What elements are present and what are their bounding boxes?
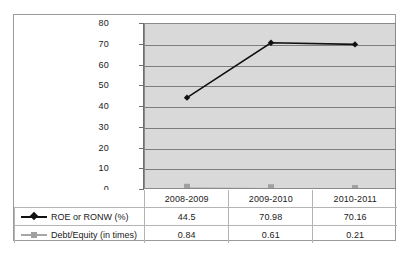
column-header-2009-2010: 2009-2010	[229, 190, 313, 208]
plot-area	[144, 23, 396, 189]
table-cell-roe-2010-2011: 70.16	[313, 208, 397, 226]
series-markers-debt-equity	[184, 184, 358, 189]
chart-frame: 80 70 60 50 40 30 20 10 0	[13, 14, 396, 241]
y-tick-label: 70	[49, 40, 109, 49]
table-row: Debt/Equity (in times) 0.84 0.61 0.21	[15, 226, 398, 244]
series-markers-roe	[184, 40, 358, 101]
series-line-roe	[187, 43, 355, 98]
table-cell-de-2009-2010: 0.61	[229, 226, 313, 244]
series-overlay	[145, 24, 396, 189]
table-cell-roe-2008-2009: 44.5	[145, 208, 229, 226]
diamond-icon	[21, 212, 47, 221]
legend-label-debt-equity: Debt/Equity (in times)	[51, 230, 137, 240]
table-cell-roe-2009-2010: 70.98	[229, 208, 313, 226]
table-corner-cell	[15, 190, 145, 208]
y-tick-label: 80	[49, 19, 109, 28]
data-point-marker	[352, 41, 358, 47]
series-line-debt-equity	[187, 188, 355, 189]
column-header-2008-2009: 2008-2009	[145, 190, 229, 208]
y-tick-label: 40	[49, 102, 109, 111]
table-cell-de-2010-2011: 0.21	[313, 226, 397, 244]
table-row: ROE or RONW (%) 44.5 70.98 70.16	[15, 208, 398, 226]
data-point-marker	[352, 185, 358, 189]
legend-cell-debt-equity: Debt/Equity (in times)	[15, 226, 145, 244]
data-point-marker	[268, 184, 274, 189]
y-tick-label: 50	[49, 81, 109, 90]
table-cell-de-2008-2009: 0.84	[145, 226, 229, 244]
plot-wrapper: 80 70 60 50 40 30 20 10 0	[14, 15, 397, 190]
legend-label-roe: ROE or RONW (%)	[51, 212, 129, 222]
table-header-row: 2008-2009 2009-2010 2010-2011	[15, 190, 398, 208]
y-tick-label: 10	[49, 164, 109, 173]
square-icon	[21, 230, 47, 239]
legend-cell-roe: ROE or RONW (%)	[15, 208, 145, 226]
data-point-marker	[184, 184, 190, 189]
column-header-2010-2011: 2010-2011	[313, 190, 397, 208]
y-tick-label: 30	[49, 123, 109, 132]
y-tick-label: 20	[49, 144, 109, 153]
y-tick-label: 60	[49, 61, 109, 70]
data-table: 2008-2009 2009-2010 2010-2011 ROE or RON…	[14, 190, 397, 243]
